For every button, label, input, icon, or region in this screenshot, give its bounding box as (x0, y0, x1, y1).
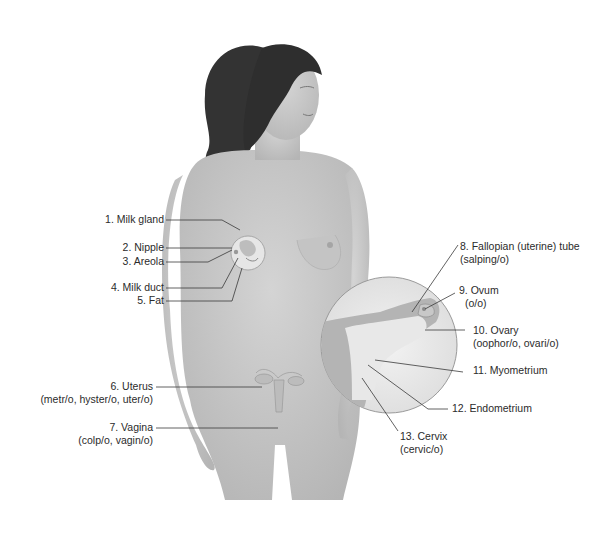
label-uterus: 6. Uterus (metr/o, hyster/o, uter/o) (20, 380, 153, 406)
label-ovary-combining: (oophor/o, ovari/o) (473, 337, 559, 350)
label-uterus-title: 6. Uterus (110, 380, 153, 392)
label-fallopian-tube-combining: (salping/o) (460, 253, 580, 266)
label-vagina-title: 7. Vagina (109, 421, 153, 433)
label-fallopian-tube: 8. Fallopian (uterine) tube (salping/o) (460, 240, 580, 266)
label-ovum-title: 9. Ovum (459, 284, 499, 296)
label-fallopian-tube-title: 8. Fallopian (uterine) tube (460, 240, 580, 252)
label-milk-gland: 1. Milk gland (70, 213, 164, 226)
label-cervix-combining: (cervic/o) (400, 443, 447, 456)
label-uterus-combining: (metr/o, hyster/o, uter/o) (20, 393, 153, 406)
breast-cutaway (231, 236, 265, 270)
label-vagina-combining: (colp/o, vagin/o) (20, 434, 153, 447)
uterus-inset (321, 277, 457, 413)
label-myometrium: 11. Myometrium (473, 364, 548, 377)
label-cervix: 13. Cervix (cervic/o) (400, 430, 447, 456)
label-ovum-combining: (o/o) (459, 297, 499, 310)
label-nipple: 2. Nipple (70, 241, 164, 254)
label-milk-duct: 4. Milk duct (70, 281, 164, 294)
label-ovary-title: 10. Ovary (473, 324, 519, 336)
label-ovum: 9. Ovum (o/o) (459, 284, 499, 310)
label-areola: 3. Areola (70, 255, 164, 268)
label-ovary: 10. Ovary (oophor/o, ovari/o) (473, 324, 559, 350)
label-vagina: 7. Vagina (colp/o, vagin/o) (20, 421, 153, 447)
label-fat: 5. Fat (70, 294, 164, 307)
anatomy-illustration (0, 0, 613, 543)
label-cervix-title: 13. Cervix (400, 430, 447, 442)
label-endometrium: 12. Endometrium (452, 402, 532, 415)
